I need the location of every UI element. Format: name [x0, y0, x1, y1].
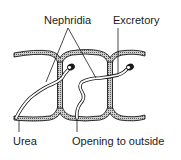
septum-left [58, 62, 63, 108]
label-opening-to-outside: Opening to outside [72, 135, 164, 147]
top-body-wall [14, 50, 145, 65]
nephridium-middle [77, 62, 135, 118]
label-nephridia: Nephridia [44, 14, 91, 26]
label-urea: Urea [13, 135, 37, 147]
label-excretory: Excretory [113, 14, 159, 26]
septum-right [108, 62, 113, 108]
nephridium-left [16, 62, 76, 118]
